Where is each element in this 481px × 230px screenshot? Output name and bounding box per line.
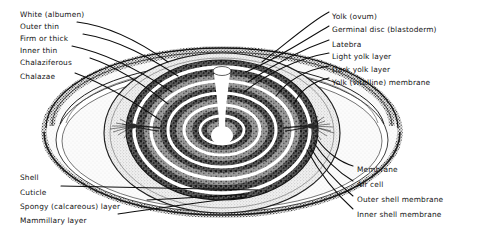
label-chalazae: Chalazae (20, 72, 55, 81)
label-inner-shell-membrane: Inner shell membrane (357, 210, 441, 219)
label-yolk-vitelline-membrane: Yolk (vitelline) membrane (332, 78, 430, 87)
label-yolk-ovum: Yolk (ovum) (332, 12, 377, 21)
label-light-yolk-layer: Light yolk layer (332, 52, 391, 61)
label-outer-shell-membrane: Outer shell membrane (357, 195, 443, 204)
label-firm-or-thick: Firm or thick (20, 34, 68, 43)
label-outer-thin: Outer thin (20, 22, 59, 31)
label-white-albumen: White (albumen) (20, 10, 84, 19)
label-spongy-calcareous-layer: Spongy (calcareous) layer (20, 202, 120, 211)
label-germinal-disc-blastoderm: Germinal disc (blastoderm) (332, 25, 437, 34)
label-inner-thin: Inner thin (20, 46, 57, 55)
label-chalaziferous: Chalaziferous (20, 58, 72, 67)
label-shell: Shell (20, 173, 39, 182)
label-latebra: Latebra (332, 40, 361, 49)
label-air-cell: Air cell (357, 180, 383, 189)
label-cuticle: Cuticle (20, 188, 47, 197)
egg-anatomy-figure: White (albumen) Outer thin Firm or thick… (0, 0, 481, 230)
germinal-disc (213, 67, 231, 76)
label-dark-yolk-layer: Dark yolk layer (332, 65, 390, 74)
label-mammillary-layer: Mammillary layer (20, 216, 87, 225)
label-membrane: Membrane (357, 165, 398, 174)
